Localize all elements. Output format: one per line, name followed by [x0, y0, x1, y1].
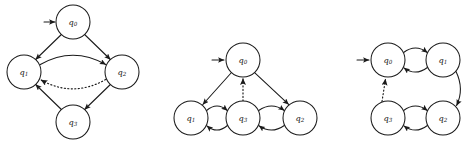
- state-node-q2-left[interactable]: q2: [105, 55, 139, 89]
- state-node-q3-right[interactable]: q3: [371, 101, 405, 135]
- edge-q1-q0-right: [404, 68, 428, 73]
- state-node-q0-middle[interactable]: q0: [226, 43, 260, 77]
- automata-figure: q0 q1 q2 q3: [0, 0, 469, 146]
- edge-q0-q1-middle: [203, 73, 232, 105]
- edge-q1-q2-left: [40, 55, 105, 64]
- state-node-q3-middle[interactable]: q3: [226, 101, 260, 135]
- edge-q3-q1-middle: [207, 126, 228, 131]
- edge-q1-q2-right: [456, 72, 460, 106]
- edge-q3-q2-middle: [259, 106, 285, 111]
- state-node-q1-middle[interactable]: q1: [174, 101, 208, 135]
- edge-q2-q3-middle: [259, 126, 284, 131]
- state-node-q2-middle[interactable]: q2: [283, 101, 317, 135]
- state-node-q1-right[interactable]: q1: [426, 43, 460, 77]
- edge-q1-q3-middle: [207, 106, 228, 111]
- edge-q3-q0-dotted-right: [382, 79, 386, 102]
- middle-automaton: q0 q1 q3 q2: [174, 43, 317, 135]
- state-node-q0-left[interactable]: q0: [56, 5, 90, 39]
- state-node-q1-left[interactable]: q1: [7, 55, 41, 89]
- edge-q0-q1-left: [36, 35, 62, 60]
- edge-q3-q2-right: [404, 106, 428, 111]
- edge-q2-q3-left: [85, 85, 111, 110]
- figure-canvas: q0 q1 q2 q3: [0, 0, 469, 146]
- edge-q2-q3-right: [404, 126, 428, 131]
- edge-q0-q2-middle: [255, 73, 289, 105]
- state-node-q3-left[interactable]: q3: [56, 105, 90, 139]
- edge-q2-q1-dotted-left: [41, 80, 106, 89]
- state-node-q2-right[interactable]: q2: [426, 101, 460, 135]
- right-automaton: q0 q1 q3 q2: [357, 43, 460, 135]
- edge-q0-q2-left: [85, 35, 111, 60]
- state-node-q0-right[interactable]: q0: [371, 43, 405, 77]
- edge-q0-q1-right: [404, 48, 428, 53]
- left-automaton: q0 q1 q2 q3: [7, 5, 139, 139]
- edge-q3-q1-left: [36, 85, 62, 110]
